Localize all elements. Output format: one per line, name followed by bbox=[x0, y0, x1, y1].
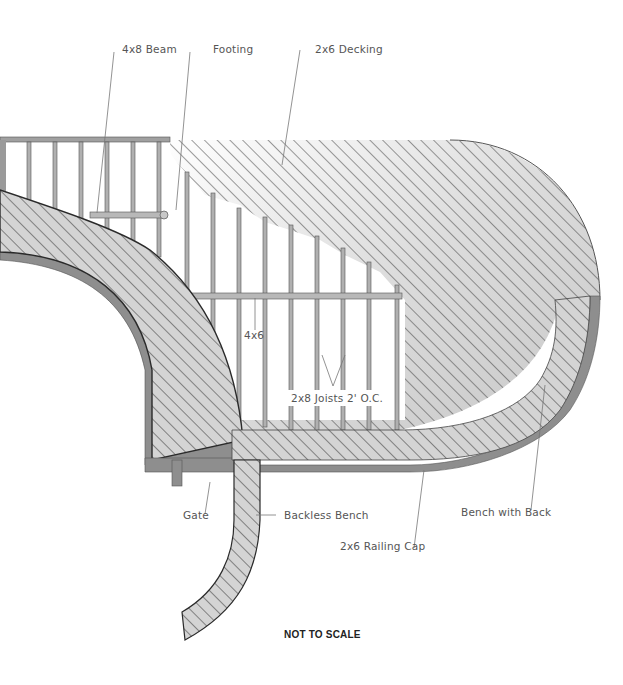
beam-4x8 bbox=[90, 212, 164, 218]
label-joists: 2x8 Joists 2' O.C. bbox=[291, 392, 383, 404]
backless-bench bbox=[182, 460, 260, 640]
gate-post bbox=[172, 460, 182, 486]
label-decking: 2x6 Decking bbox=[315, 43, 383, 55]
label-railing-cap: 2x6 Railing Cap bbox=[340, 540, 425, 552]
beam-4x6 bbox=[190, 293, 402, 299]
label-backless-bench: Backless Bench bbox=[284, 509, 369, 521]
label-bench-with-back: Bench with Back bbox=[461, 506, 552, 518]
label-4x6: 4x6 bbox=[244, 329, 264, 341]
footing bbox=[160, 211, 168, 219]
not-to-scale-note: NOT TO SCALE bbox=[284, 629, 361, 640]
label-beam: 4x8 Beam bbox=[122, 43, 177, 55]
deck-plan-diagram: 4x8 Beam Footing 2x6 Decking 4x6 2x8 Joi… bbox=[0, 0, 623, 685]
label-gate: Gate bbox=[183, 509, 209, 521]
label-footing: Footing bbox=[213, 43, 253, 55]
